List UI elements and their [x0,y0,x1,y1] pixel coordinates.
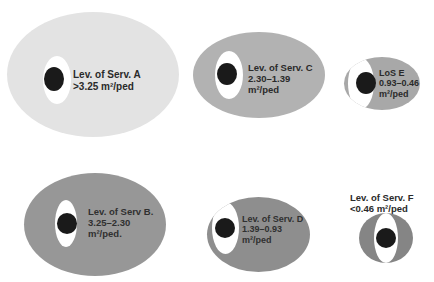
los-a-label: Lev. of Serv. A >3.25 m²/ped [73,69,141,92]
los-d-label: Lev. of Serv. D 1.39–0.93 m²/ped [242,214,303,245]
los-d-pedestrian-icon [215,218,235,238]
los-f-pedestrian-icon [376,228,396,248]
los-e-ellipse: LoS E 0.93–0.46 m²/ped [344,57,420,110]
los-c-pedestrian-icon [217,63,237,85]
los-b-ellipse: Lev. of Serv B. 3.25–2.30 m²/ped. [24,173,166,276]
los-f-ellipse [359,213,413,263]
los-a-ellipse: Lev. of Serv. A >3.25 m²/ped [7,12,179,137]
los-e-label: LoS E 0.93–0.46 m²/ped [379,68,419,99]
los-c-ellipse: Lev. of Serv. C 2.30–1.39 m²/ped [193,32,325,118]
los-b-label: Lev. of Serv B. 3.25–2.30 m²/ped. [88,207,153,240]
los-f-label: Lev. of Serv. F <0.46 m²/ped [350,193,414,215]
los-e-pedestrian-icon [356,72,376,94]
los-b-pedestrian-icon [57,213,77,234]
los-d-ellipse: Lev. of Serv. D 1.39–0.93 m²/ped [207,197,310,272]
los-c-label: Lev. of Serv. C 2.30–1.39 m²/ped [248,63,313,96]
los-a-pedestrian-icon [44,67,64,91]
